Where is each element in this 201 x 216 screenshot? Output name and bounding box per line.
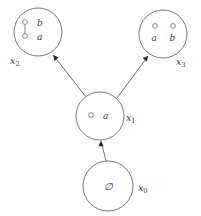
element-label-a: a bbox=[152, 33, 157, 43]
transition-line bbox=[55, 58, 86, 97]
diagram-canvas: b a x2 a b x3 a x1 ∅ x0 bbox=[0, 0, 201, 216]
node-boundary bbox=[139, 10, 187, 58]
node-label-x0: x0 bbox=[138, 182, 148, 195]
node-x0[interactable]: ∅ x0 bbox=[83, 161, 148, 211]
element-vertex-b bbox=[171, 24, 176, 29]
node-boundary bbox=[76, 92, 124, 140]
element-vertex-a bbox=[153, 24, 158, 29]
element-label-b: b bbox=[37, 18, 43, 28]
graph-transition-diagram: b a x2 a b x3 a x1 ∅ x0 bbox=[0, 0, 201, 216]
arrow-head-icon bbox=[53, 55, 59, 61]
arrow-head-icon bbox=[98, 141, 103, 147]
element-label-a: a bbox=[37, 32, 42, 42]
arrow-head-icon bbox=[143, 56, 149, 62]
node-label-x1: x1 bbox=[126, 112, 136, 125]
element-vertex-b bbox=[23, 20, 28, 25]
node-label-x2: x2 bbox=[10, 55, 20, 68]
transition-x1-to-x3 bbox=[117, 56, 148, 98]
element-label-b: b bbox=[170, 33, 176, 43]
empty-set-symbol: ∅ bbox=[104, 181, 114, 192]
node-label-x3: x3 bbox=[176, 56, 186, 69]
element-vertex-a bbox=[89, 113, 94, 118]
transition-x1-to-x2 bbox=[53, 55, 86, 97]
transition-x0-to-x1 bbox=[98, 141, 106, 162]
element-vertex-a bbox=[23, 34, 28, 39]
node-x1[interactable]: a x1 bbox=[76, 92, 136, 140]
element-label-a: a bbox=[103, 111, 108, 121]
transition-line bbox=[117, 59, 146, 98]
